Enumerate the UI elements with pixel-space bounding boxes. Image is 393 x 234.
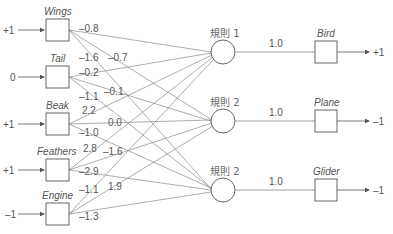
input-neuron-beak <box>46 113 69 135</box>
rule-label-2: 規則 2 <box>210 97 240 108</box>
weight-label: –1.6 <box>79 52 99 63</box>
weight-label: –1.0 <box>79 127 99 138</box>
weight-label: 2.2 <box>82 105 96 116</box>
output-label-plane: Plane <box>314 97 340 108</box>
rule-neuron-2 <box>211 109 235 133</box>
rule-neuron-3 <box>211 178 235 202</box>
output-weight-3: 1.0 <box>269 176 283 187</box>
input-neuron-tail <box>46 66 69 88</box>
input-value-feathers: +1 <box>3 165 15 176</box>
weight-label: 0.0 <box>108 117 122 128</box>
weight-label: –0.7 <box>108 52 128 63</box>
output-neuron-plane <box>315 110 337 132</box>
input-label-wings: Wings <box>44 6 72 17</box>
weight-label: 2.8 <box>83 143 97 154</box>
weight-label: –1.6 <box>103 146 123 157</box>
input-neuron-wings <box>46 19 69 41</box>
rule-neuron-1 <box>211 40 235 64</box>
input-neuron-engine <box>46 203 69 225</box>
weight-label: –0.8 <box>79 23 99 34</box>
rule-label-3: 規則 2 <box>210 166 240 177</box>
neural-network-diagram: +1 0 +1 +1 –1 Wings Tail Beak Feathers E… <box>0 0 393 234</box>
weight-label: –0.1 <box>104 86 124 97</box>
rule-label-1: 規則 1 <box>210 28 240 39</box>
input-value-beak: +1 <box>3 119 15 130</box>
weight-label: –0.2 <box>79 67 99 78</box>
output-label-bird: Bird <box>317 28 335 39</box>
input-label-feathers: Feathers <box>37 146 76 157</box>
output-value-bird: +1 <box>373 47 385 58</box>
output-neuron-bird <box>315 41 337 63</box>
weight-label: –1.1 <box>79 91 99 102</box>
input-label-beak: Beak <box>46 100 70 111</box>
input-label-engine: Engine <box>42 190 74 201</box>
output-label-glider: Glider <box>313 166 340 177</box>
input-value-engine: –1 <box>5 209 17 220</box>
output-value-plane: –1 <box>373 116 385 127</box>
output-weight-2: 1.0 <box>269 107 283 118</box>
input-value-wings: +1 <box>3 25 15 36</box>
weight-label: –2.9 <box>79 166 99 177</box>
output-neuron-glider <box>315 179 337 201</box>
weight-label: –1.3 <box>79 211 99 222</box>
input-label-tail: Tail <box>50 53 66 64</box>
input-neuron-feathers <box>46 159 69 181</box>
output-weight-1: 1.0 <box>269 38 283 49</box>
input-value-tail: 0 <box>10 72 16 83</box>
output-value-glider: –1 <box>373 185 385 196</box>
weight-label: 1.9 <box>108 181 122 192</box>
weight-label: –1.1 <box>79 184 99 195</box>
